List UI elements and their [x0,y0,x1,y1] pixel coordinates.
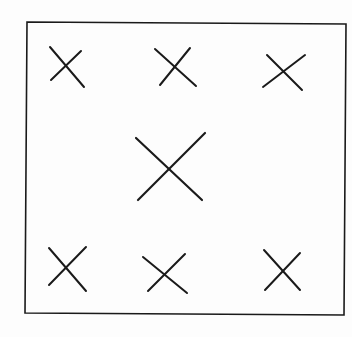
x-marks-group [49,47,305,293]
x-mark-top-right-icon [263,55,305,90]
x-mark-stroke [155,49,196,86]
marks-diagram [0,0,352,337]
x-mark-center-icon [136,133,205,200]
x-mark-stroke [138,133,205,200]
x-mark-bottom-right-icon [264,250,300,290]
x-mark-top-left-icon [50,47,84,87]
x-mark-stroke [49,248,86,291]
x-mark-stroke [51,51,81,80]
x-mark-bottom-left-icon [49,247,86,291]
frame-rectangle [25,22,346,315]
x-mark-stroke [160,48,190,85]
x-mark-stroke [148,254,185,291]
x-mark-bottom-center-icon [143,254,187,293]
diagram-canvas [0,0,352,337]
x-mark-stroke [49,247,86,285]
x-mark-stroke [263,55,305,87]
x-mark-top-center-icon [155,48,196,86]
